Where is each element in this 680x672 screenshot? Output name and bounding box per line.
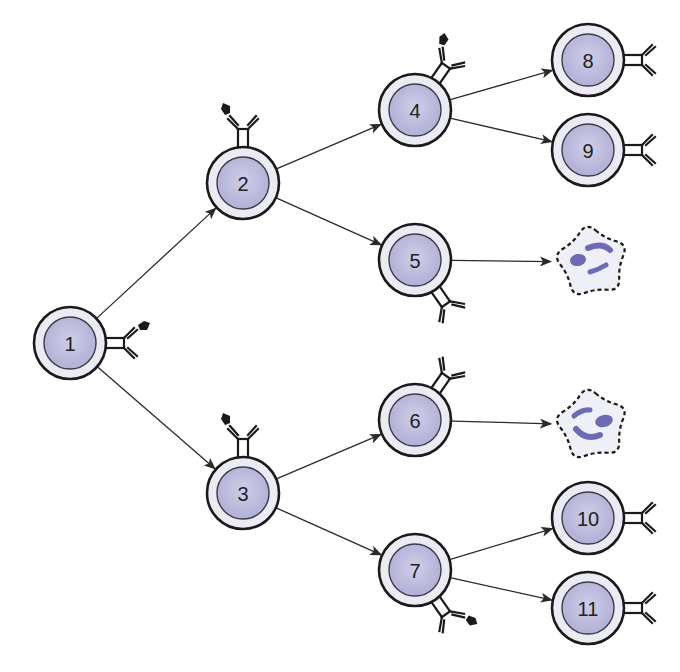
arrow-6-to-plasma-b — [452, 421, 551, 424]
plasma-cell-membrane — [553, 385, 630, 459]
cells-layer: 1234567891011 — [34, 24, 655, 644]
cell-label: 1 — [64, 333, 75, 355]
arrow-2-to-5 — [277, 198, 381, 245]
antigen-icon — [436, 32, 450, 47]
arrow-5-to-plasma-a — [452, 260, 551, 261]
antibody-receptor-icon — [624, 135, 655, 165]
plasma-cells-layer — [553, 222, 630, 459]
plasma-cell-membrane — [553, 222, 630, 296]
cell-label: 3 — [237, 483, 248, 505]
arrow-7-to-10 — [450, 529, 552, 560]
arrow-3-to-7 — [277, 508, 381, 555]
b-cell-5: 5 — [379, 224, 466, 323]
cell-label: 10 — [577, 508, 599, 530]
cell-differentiation-diagram: 1234567891011 — [0, 0, 680, 672]
plasma-cell-plasma-b — [553, 385, 630, 459]
antibody-receptor-icon — [624, 593, 655, 623]
b-cell-7: 7 — [379, 534, 479, 644]
arrow-3-to-6 — [277, 434, 381, 478]
b-cell-6: 6 — [379, 357, 466, 456]
arrow-2-to-4 — [277, 124, 381, 168]
b-cell-4: 4 — [379, 32, 473, 146]
b-cell-1: 1 — [34, 307, 150, 379]
antigen-icon — [465, 613, 479, 628]
antibody-receptor-icon — [106, 321, 150, 358]
antibody-receptor-icon — [624, 45, 655, 75]
arrow-4-to-9 — [451, 118, 552, 141]
cell-label: 6 — [409, 410, 420, 432]
arrow-1-to-3 — [98, 367, 215, 469]
plasma-cell-plasma-a — [553, 222, 630, 296]
cell-label: 11 — [578, 598, 599, 620]
cell-label: 9 — [582, 140, 593, 162]
arrow-4-to-8 — [451, 70, 553, 99]
b-cell-3: 3 — [207, 413, 279, 529]
cell-label: 5 — [409, 250, 420, 272]
arrows-layer — [97, 70, 552, 600]
arrow-1-to-2 — [97, 208, 216, 318]
b-cell-8: 8 — [552, 24, 655, 96]
cell-label: 8 — [582, 50, 593, 72]
b-cell-2: 2 — [207, 103, 279, 219]
arrow-7-to-11 — [451, 578, 552, 600]
antibody-receptor-icon — [624, 503, 655, 533]
antigen-icon — [221, 413, 230, 425]
b-cell-10: 10 — [552, 482, 655, 554]
antibody-receptor-icon — [221, 103, 258, 147]
antibody-receptor-icon — [221, 413, 258, 457]
antigen-icon — [138, 321, 150, 330]
cell-label: 7 — [409, 560, 420, 582]
b-cell-11: 11 — [552, 572, 655, 644]
cell-label: 4 — [409, 100, 420, 122]
b-cell-9: 9 — [552, 114, 655, 186]
antigen-icon — [221, 103, 230, 115]
cell-label: 2 — [237, 173, 248, 195]
